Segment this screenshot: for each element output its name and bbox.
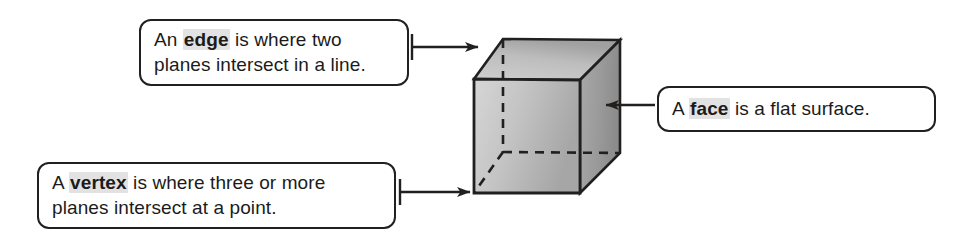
callout-vertex-term: vertex bbox=[69, 172, 128, 193]
callout-vertex-suffix: is where three or more bbox=[128, 172, 326, 193]
callout-face-prefix: A bbox=[672, 98, 689, 119]
cube-front-face bbox=[474, 79, 580, 193]
callout-vertex-line1: A vertex is where three or more bbox=[52, 170, 381, 195]
arrow-edge bbox=[412, 34, 478, 60]
diagram-canvas: An edge is where two planes intersect in… bbox=[0, 0, 953, 240]
callout-edge-suffix: is where two bbox=[230, 29, 342, 50]
callout-edge-term: edge bbox=[183, 29, 230, 50]
callout-face-suffix: is a flat surface. bbox=[730, 98, 870, 119]
arrow-vertex bbox=[400, 179, 470, 205]
cube-shape bbox=[474, 39, 620, 193]
callout-face-term: face bbox=[689, 98, 729, 119]
callout-vertex-line2: planes intersect at a point. bbox=[52, 195, 381, 220]
callout-vertex-prefix: A bbox=[52, 172, 69, 193]
callout-edge-prefix: An bbox=[154, 29, 183, 50]
callout-edge-line2: planes intersect in a line. bbox=[154, 52, 394, 77]
callout-edge: An edge is where two planes intersect in… bbox=[139, 19, 409, 86]
callout-vertex: A vertex is where three or more planes i… bbox=[37, 162, 396, 229]
callout-face-line1: A face is a flat surface. bbox=[672, 96, 921, 121]
callout-face: A face is a flat surface. bbox=[657, 86, 936, 132]
callout-edge-line1: An edge is where two bbox=[154, 27, 394, 52]
